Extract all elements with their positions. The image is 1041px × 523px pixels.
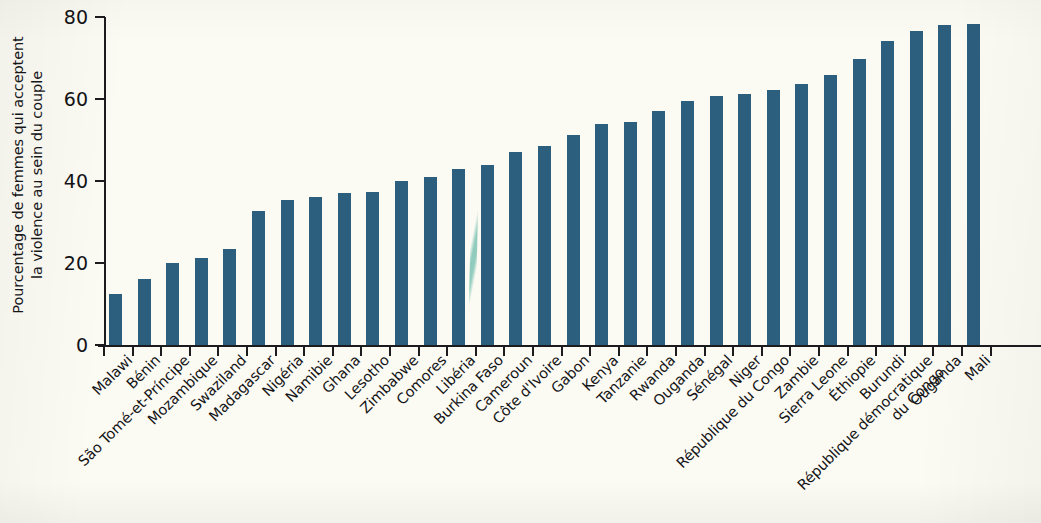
bar[interactable] — [281, 200, 294, 345]
bar[interactable] — [795, 84, 808, 345]
bar[interactable] — [252, 211, 265, 345]
y-axis-title: Pourcentage de femmes qui acceptent la v… — [0, 0, 56, 350]
bar[interactable] — [195, 258, 208, 345]
bar[interactable] — [109, 294, 122, 345]
bar-chart-figure: Pourcentage de femmes qui acceptent la v… — [0, 0, 1041, 523]
bar[interactable] — [824, 75, 837, 345]
y-tick-label-60: 60 — [64, 88, 88, 110]
y-tick-20: 20 — [95, 262, 105, 264]
bar[interactable] — [967, 24, 980, 345]
y-tick-80: 80 — [95, 16, 105, 18]
plot-area: 020406080 — [104, 10, 1041, 346]
x-axis-label-line: Mali — [961, 352, 993, 384]
bar[interactable] — [223, 249, 236, 345]
bar[interactable] — [309, 197, 322, 345]
bar[interactable] — [881, 41, 894, 345]
bar[interactable] — [652, 111, 665, 345]
y-tick-label-0: 0 — [76, 334, 88, 356]
y-tick-label-80: 80 — [64, 6, 88, 28]
bar[interactable] — [509, 152, 522, 345]
bar[interactable] — [624, 122, 637, 345]
y-axis-title-line-2: la violence au sein du couple — [28, 36, 47, 313]
bar[interactable] — [166, 263, 179, 345]
y-tick-label-20: 20 — [64, 252, 88, 274]
bar[interactable] — [452, 169, 465, 345]
bar[interactable] — [395, 181, 408, 345]
bar[interactable] — [910, 31, 923, 345]
bar[interactable] — [538, 146, 551, 345]
bar[interactable] — [681, 101, 694, 345]
bar[interactable] — [481, 165, 494, 345]
bar[interactable] — [738, 94, 751, 345]
y-tick-label-40: 40 — [64, 170, 88, 192]
bar[interactable] — [595, 124, 608, 345]
x-axis-label: Mali — [961, 352, 993, 384]
bar[interactable] — [424, 177, 437, 345]
bar[interactable] — [138, 279, 151, 345]
bar[interactable] — [338, 193, 351, 345]
x-axis-label-group: MalawiBéninSão Tomé-et-PríncipeMozambiqu… — [104, 352, 1041, 523]
scan-fold-line-artifact — [468, 160, 479, 350]
bar[interactable] — [853, 59, 866, 345]
y-tick-40: 40 — [95, 180, 105, 182]
y-axis-title-text: Pourcentage de femmes qui acceptent la v… — [9, 36, 47, 313]
bar[interactable] — [567, 135, 580, 345]
x-axis-line — [98, 345, 1041, 347]
y-tick-0: 0 — [95, 344, 105, 346]
bar[interactable] — [938, 25, 951, 345]
bar[interactable] — [767, 90, 780, 345]
bar[interactable] — [366, 192, 379, 345]
y-axis-title-line-1: Pourcentage de femmes qui acceptent — [10, 36, 26, 313]
y-tick-60: 60 — [95, 98, 105, 100]
bar[interactable] — [710, 96, 723, 345]
